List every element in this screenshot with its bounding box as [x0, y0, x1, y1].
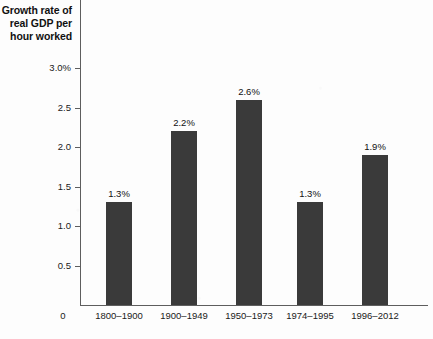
y-axis-tick — [75, 187, 81, 188]
bar[interactable] — [171, 131, 197, 305]
x-axis-line — [80, 305, 428, 306]
chart-figure: Growth rate of real GDP per hour worked … — [0, 0, 433, 339]
bar[interactable] — [236, 100, 262, 305]
y-axis-line — [80, 0, 81, 306]
y-axis-tick-label-text: 2.0 — [0, 142, 71, 152]
x-axis-category-label: 1974–1995 — [275, 311, 345, 321]
chart-title: Growth rate of real GDP per hour worked — [0, 4, 72, 43]
bar-value-label: 1.3% — [89, 189, 149, 199]
y-axis-tick-label: 2.0 — [0, 142, 71, 152]
bar-value-label: 1.3% — [280, 189, 340, 199]
bar-value-label: 2.2% — [154, 118, 214, 128]
bar[interactable] — [362, 155, 388, 305]
y-axis-tick-label-text: 2.5 — [0, 103, 71, 113]
y-axis-tick-label: 1.0 — [0, 221, 71, 231]
y-axis-tick-label: 2.5 — [0, 103, 71, 113]
chart-title-line-3: hour worked — [0, 30, 72, 43]
origin-label: 0 — [56, 311, 70, 321]
y-axis-tick — [75, 108, 81, 109]
bar-value-label: 1.9% — [345, 142, 405, 152]
chart-title-line-2: real GDP per — [0, 17, 72, 30]
bar[interactable] — [297, 202, 323, 305]
bar[interactable] — [106, 202, 132, 305]
y-axis-tick-label: 1.5 — [0, 182, 71, 192]
y-axis-tick — [75, 226, 81, 227]
plot-area: 1.3%1800–19002.2%1900–19492.6%1950–19731… — [0, 0, 433, 339]
chart-title-line-1: Growth rate of — [0, 4, 72, 17]
x-axis-category-label: 1900–1949 — [149, 311, 219, 321]
y-axis-tick-label-text: 1.5 — [0, 182, 71, 192]
y-axis-tick-label: 0.5 — [0, 261, 71, 271]
y-axis-tick — [75, 266, 81, 267]
y-axis-tick — [75, 147, 81, 148]
bar-value-label: 2.6% — [219, 87, 279, 97]
y-axis-tick-label-text: 3.0% — [0, 63, 71, 73]
y-axis-tick-label-text: 1.0 — [0, 221, 71, 231]
x-axis-category-label: 1950–1973 — [214, 311, 284, 321]
y-axis-tick-label-text: 0.5 — [0, 261, 71, 271]
y-axis-tick-label: 3.0% — [0, 63, 71, 73]
x-axis-category-label: 1800–1900 — [84, 311, 154, 321]
x-axis-category-label: 1996–2012 — [340, 311, 410, 321]
y-axis-tick — [75, 68, 81, 69]
